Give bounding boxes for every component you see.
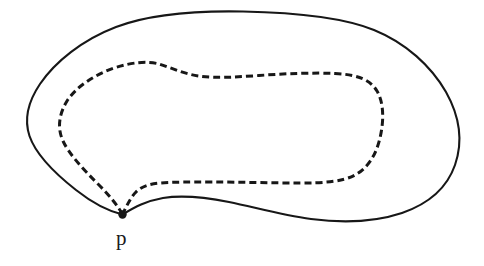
figure-container: p [0, 0, 484, 266]
vertex-point-p [118, 210, 126, 218]
label-p: p [116, 228, 127, 249]
curve-diagram-svg [0, 0, 484, 266]
figure-background [0, 0, 484, 266]
